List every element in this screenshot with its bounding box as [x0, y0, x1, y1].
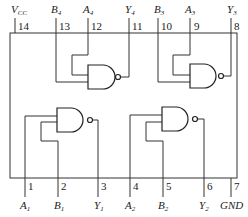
svg-text:Y3: Y3	[227, 3, 237, 17]
svg-text:VCC: VCC	[11, 3, 27, 17]
svg-text:10: 10	[161, 20, 173, 32]
svg-text:2: 2	[61, 180, 67, 192]
svg-text:Y2: Y2	[199, 199, 209, 213]
svg-text:7: 7	[234, 180, 240, 192]
svg-text:A3: A3	[184, 3, 196, 17]
svg-text:9: 9	[194, 20, 200, 32]
svg-text:12: 12	[91, 20, 102, 32]
chip-body	[10, 33, 237, 178]
svg-text:14: 14	[18, 20, 30, 32]
svg-text:1: 1	[28, 180, 34, 192]
svg-text:B1: B1	[54, 199, 64, 213]
nand-gate-2	[130, 107, 204, 178]
svg-text:4: 4	[133, 180, 139, 192]
svg-text:5: 5	[166, 180, 172, 192]
svg-text:6: 6	[207, 180, 213, 192]
svg-text:11: 11	[132, 20, 143, 32]
svg-text:GND: GND	[220, 199, 243, 211]
nand-pinout-diagram: 14 13 12 11 10 9 8 VCC B4 A4 Y4 B3 A3 Y3…	[0, 0, 248, 217]
svg-text:A2: A2	[124, 199, 136, 213]
bottom-pin-numbers: 1 2 3 4 5 6 7	[28, 180, 240, 192]
svg-text:A4: A4	[82, 3, 94, 17]
svg-text:A1: A1	[19, 199, 30, 213]
bottom-pin-leads	[25, 178, 231, 197]
svg-text:B3: B3	[154, 3, 165, 17]
svg-text:B4: B4	[51, 3, 62, 17]
bottom-pin-labels: A1 B1 Y1 A2 B2 Y2 GND	[19, 199, 243, 213]
svg-text:3: 3	[101, 180, 107, 192]
svg-text:13: 13	[59, 20, 71, 32]
nand-gate-3	[158, 33, 231, 88]
svg-text:Y4: Y4	[125, 3, 135, 17]
svg-text:Y1: Y1	[94, 199, 104, 213]
top-pin-labels: VCC B4 A4 Y4 B3 A3 Y3	[11, 3, 237, 17]
nand-gate-4	[56, 33, 129, 89]
svg-text:B2: B2	[158, 199, 169, 213]
svg-text:8: 8	[234, 20, 240, 32]
nand-gate-1	[25, 108, 98, 178]
